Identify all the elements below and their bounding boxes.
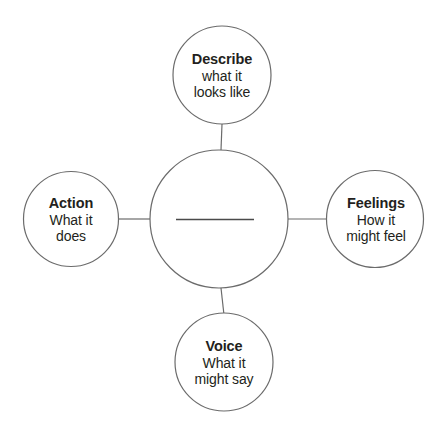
feelings-circle[interactable]: [327, 171, 424, 268]
voice-circle[interactable]: [175, 313, 273, 411]
describe-circle[interactable]: [173, 26, 271, 124]
connector-center-to-describe: [221, 124, 222, 150]
diagram-canvas: Describe what it looks like Action What …: [0, 0, 437, 432]
diagram-graphics: [0, 0, 437, 432]
connector-center-to-voice: [221, 288, 224, 315]
action-circle[interactable]: [24, 172, 119, 267]
